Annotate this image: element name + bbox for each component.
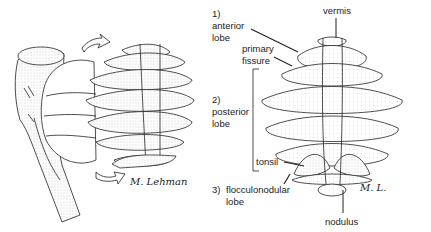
signature-left: M. Lehman [130, 176, 187, 187]
label-nodulus: nodulus [325, 216, 358, 227]
label-tonsil: tonsil [256, 156, 278, 167]
label-primary-line1: primary [242, 43, 274, 54]
rotation-arrow-top [82, 34, 110, 52]
right-posterior-lobe [262, 64, 402, 167]
label-anterior-number: 1) [212, 8, 220, 19]
label-vermis: vermis [323, 5, 351, 16]
label-anterior-line2: lobe [212, 32, 230, 43]
label-floccular-line1: flocculonodular [226, 184, 290, 195]
label-posterior-line2: lobe [212, 118, 230, 129]
label-posterior-number: 2) [212, 94, 220, 105]
label-anterior-line1: anterior [212, 20, 244, 31]
cerebellum-folia [86, 44, 194, 166]
rotation-arrow-bottom [96, 172, 125, 184]
signature-right: M. L. [360, 182, 386, 193]
left-flocculus [112, 155, 176, 168]
label-primary-line2: fissure [242, 55, 270, 66]
label-floccular-number: 3) [212, 184, 220, 195]
label-floccular-line2: lobe [226, 196, 244, 207]
label-posterior-line1: posterior [212, 106, 249, 117]
